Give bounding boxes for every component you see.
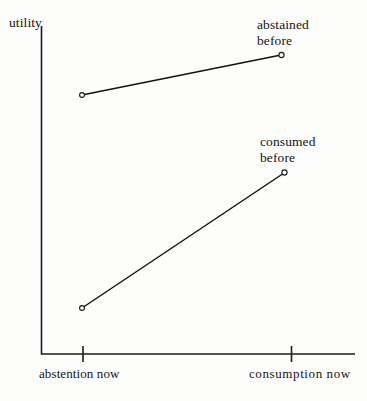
- series-label-abstained-line2: before: [257, 33, 309, 49]
- series-label-abstained-line1: abstained: [257, 17, 309, 33]
- series-label-consumed-line1: consumed: [260, 134, 316, 150]
- data-point-abstained-right: [279, 52, 284, 57]
- series-line-abstained-before: [82, 55, 281, 95]
- y-axis-title: utility: [9, 15, 42, 31]
- series-line-consumed-before: [82, 173, 284, 308]
- plot-canvas: [0, 0, 367, 401]
- utility-comparison-figure: utility abstained before consumed before…: [0, 0, 367, 401]
- series-label-consumed-line2: before: [260, 150, 316, 166]
- x-tick-label-abstention: abstention now: [39, 366, 119, 381]
- data-point-consumed-left: [80, 306, 85, 311]
- data-point-abstained-left: [80, 93, 85, 98]
- series-label-abstained-before: abstained before: [257, 17, 309, 48]
- data-point-consumed-right: [282, 170, 287, 175]
- series-label-consumed-before: consumed before: [260, 134, 316, 165]
- x-tick-label-consumption: consumption now: [249, 366, 351, 381]
